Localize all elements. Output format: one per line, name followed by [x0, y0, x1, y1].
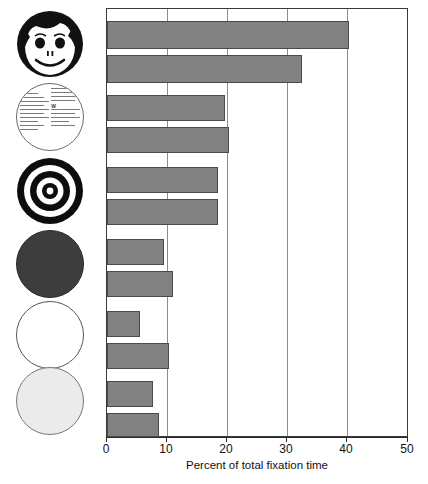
x-tick-label: 10 [159, 442, 172, 456]
bullseye-svg [16, 157, 84, 225]
newsprint-line [51, 96, 80, 97]
bar [107, 271, 173, 297]
bar [107, 95, 225, 121]
bar [107, 239, 164, 265]
fixation-time-bar-chart: d W [0, 0, 428, 484]
x-tick-label: 50 [400, 442, 413, 456]
newsprint-text-icon: d W [16, 83, 84, 151]
x-tick-label: 30 [279, 442, 292, 456]
newsprint-line [20, 121, 38, 122]
newsprint-line [20, 109, 49, 110]
newsprint-line [51, 100, 75, 101]
x-tick-label: 40 [339, 442, 352, 456]
bullseye-target-icon [16, 157, 84, 225]
newsprint-line [51, 88, 69, 89]
gridline-40 [347, 9, 348, 436]
bar [107, 21, 349, 49]
bar [107, 413, 159, 437]
x-tick-label: 0 [103, 442, 110, 456]
dark-gray-circle-icon [16, 230, 84, 298]
bar [107, 55, 302, 83]
newsprint-line [20, 117, 49, 118]
white-circle-icon [16, 301, 84, 369]
x-axis-line [106, 437, 408, 438]
bar [107, 127, 229, 153]
plot-area [106, 8, 408, 437]
smiley-face-svg [16, 10, 84, 78]
newsprint-line [51, 121, 69, 122]
bar [107, 343, 169, 369]
newsprint-line [51, 109, 80, 110]
newsprint-line [20, 113, 44, 114]
x-tick-label: 20 [219, 442, 232, 456]
newsprint-line [51, 117, 80, 118]
newsprint-columns: d W [17, 84, 83, 150]
newsprint-line [20, 93, 38, 94]
newsprint-line [51, 125, 75, 126]
newsprint-line [20, 129, 38, 130]
bar [107, 311, 140, 337]
bar [107, 167, 218, 193]
newsprint-line [51, 113, 75, 114]
newsprint-line [20, 101, 49, 102]
bar [107, 381, 153, 407]
newsprint-line [51, 92, 75, 93]
stimulus-icon-column: d W [0, 0, 100, 437]
newsprint-line [20, 125, 44, 126]
x-axis-label: Percent of total fixation time [106, 459, 408, 471]
smiley-face-icon [16, 10, 84, 78]
newsprint-line [20, 97, 44, 98]
light-gray-circle-icon [16, 367, 84, 435]
bar [107, 199, 218, 225]
newsprint-line [20, 105, 44, 106]
